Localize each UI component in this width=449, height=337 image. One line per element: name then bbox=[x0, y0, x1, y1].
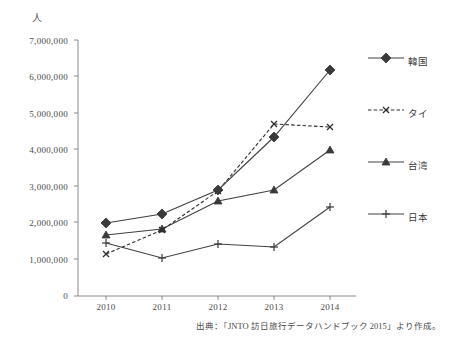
chart-container: 人 7,000,000 6,000,000 5,000,000 4,000,00… bbox=[0, 0, 449, 337]
y-axis-ticks bbox=[74, 40, 78, 296]
legend-swatch-korea bbox=[368, 53, 404, 63]
series-markers-japan bbox=[102, 203, 334, 262]
axis-lines bbox=[78, 40, 356, 296]
legend-swatch-taiwan bbox=[368, 158, 404, 165]
series-line-japan bbox=[102, 203, 334, 262]
legend-swatch-japan bbox=[368, 210, 404, 218]
x-axis-ticks bbox=[106, 296, 330, 300]
legend-swatch-thailand bbox=[368, 107, 404, 113]
chart-plot-svg bbox=[0, 0, 449, 337]
